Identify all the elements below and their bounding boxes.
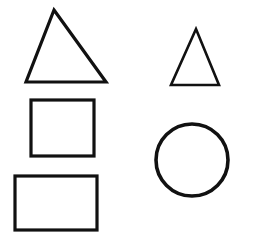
large-triangle-shape <box>26 10 106 82</box>
drawing-canvas <box>0 0 254 240</box>
small-triangle-shape <box>171 29 219 85</box>
square-shape <box>31 100 94 156</box>
rectangle-shape <box>15 176 97 230</box>
circle-shape <box>156 124 228 196</box>
shapes-figure <box>0 0 254 240</box>
